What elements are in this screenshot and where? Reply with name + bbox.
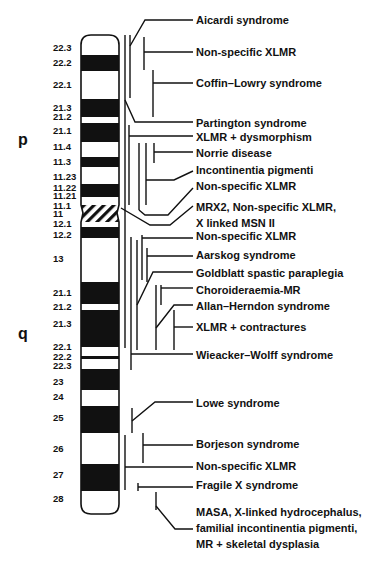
band-labels: 22.322.222.121.321.221.111.411.311.2311.… [53, 42, 77, 504]
band-21-1 [81, 123, 119, 142]
disease-label-partington: Partington syndrome [196, 117, 307, 129]
disease-label-line: Non-specific XLMR [196, 46, 296, 58]
band-label: 22.3 [53, 360, 72, 371]
disease-label-line: Incontinentia pigmenti [196, 164, 313, 176]
bracket-nonspecific-xlmr-4 [125, 435, 193, 490]
disease-label-line: MRX2, Non-specific XLMR, [196, 201, 336, 213]
band-label: 21.1 [53, 287, 72, 298]
bracket-nonspecific-xlmr-2 [139, 143, 193, 215]
bracket-masa [156, 492, 193, 529]
disease-label-nonspecific-xlmr-3: Non-specific XLMR [196, 230, 296, 242]
disease-label-coffin-lowry: Coffin–Lowry syndrome [196, 77, 322, 89]
band-label: 24 [53, 391, 64, 402]
bracket-choroideraemia [161, 285, 193, 305]
bracket-borjeson [143, 433, 193, 463]
disease-label-aarskog: Aarskog syndrome [196, 249, 296, 261]
band-28 [81, 491, 119, 514]
band-label: 11.4 [53, 141, 72, 152]
disease-label-line: Norrie disease [196, 147, 272, 159]
band-label: 22.1 [53, 79, 72, 90]
disease-label-allan-herndon: Allan–Herndon syndrome [196, 300, 330, 312]
disease-label-xlmr-dysmorphism: XLMR + dysmorphism [196, 131, 312, 143]
band-21-3 [81, 310, 119, 347]
band-11 [81, 214, 119, 222]
disease-label-line: XLMR + dysmorphism [196, 131, 312, 143]
x-chromosome-disease-map: pq 22.322.222.121.321.221.111.411.311.23… [0, 0, 385, 563]
band-27 [81, 464, 119, 491]
disease-label-line: Borjeson syndrome [196, 438, 299, 450]
disease-label-wieacker-wolff: Wieacker–Wolff syndrome [196, 349, 333, 361]
disease-label-line: MR + skeletal dysplasia [196, 538, 320, 550]
band-22-3 [81, 359, 119, 369]
disease-label-line: Partington syndrome [196, 117, 307, 129]
band-12-1 [81, 222, 119, 227]
band-24 [81, 390, 119, 406]
disease-label-masa: MASA, X-linked hydrocephalus,familial in… [196, 506, 362, 550]
disease-label-line: XLMR + contractures [196, 321, 306, 333]
disease-label-nonspecific-xlmr-1: Non-specific XLMR [196, 46, 296, 58]
arm-labels: pq [18, 131, 28, 342]
disease-label-mrx2: MRX2, Non-specific XLMR,X linked MSN II [196, 201, 336, 229]
band-11-3 [81, 157, 119, 167]
band-label: 26 [53, 443, 64, 454]
band-22-3 [81, 35, 119, 55]
disease-label-line: Goldblatt spastic paraplegia [196, 267, 344, 279]
band-11-22 [81, 184, 119, 197]
disease-label-choroideraemia: Choroideraemia-MR [196, 284, 301, 296]
disease-label-line: Wieacker–Wolff syndrome [196, 349, 333, 361]
disease-label-line: MASA, X-linked hydrocephalus, [196, 506, 362, 518]
band-25 [81, 406, 119, 433]
band-21-1 [81, 282, 119, 304]
disease-label-nonspecific-xlmr-2: Non-specific XLMR [196, 180, 296, 192]
band-11-23 [81, 167, 119, 184]
band-label: 22.2 [53, 57, 72, 68]
bracket-nonspecific-xlmr-3 [142, 235, 193, 280]
band-label: 11.23 [53, 171, 76, 182]
disease-label-borjeson: Borjeson syndrome [196, 438, 299, 450]
band-11-1 [81, 205, 119, 214]
disease-label-lowe: Lowe syndrome [196, 397, 280, 409]
band-22-2 [81, 55, 119, 71]
disease-label-line: Coffin–Lowry syndrome [196, 77, 322, 89]
band-11-21 [81, 197, 119, 205]
disease-label-line: familial incontinentia pigmenti, [196, 522, 357, 534]
band-label: 21.1 [53, 125, 72, 136]
band-21-3 [81, 99, 119, 117]
bracket-partington [125, 100, 193, 122]
arm-label-q: q [18, 325, 28, 342]
disease-label-line: Choroideraemia-MR [196, 284, 301, 296]
band-label: 27 [53, 469, 64, 480]
disease-label-line: Allan–Herndon syndrome [196, 300, 330, 312]
disease-label-line: X linked MSN II [196, 217, 275, 229]
band-23 [81, 369, 119, 390]
arm-label-p: p [18, 131, 28, 148]
band-11-4 [81, 142, 119, 157]
band-label: 25 [53, 412, 64, 423]
band-26 [81, 433, 119, 464]
band-21-2 [81, 117, 119, 123]
disease-label-norrie: Norrie disease [196, 147, 272, 159]
band-label: 21.2 [53, 301, 72, 312]
bracket-fragile-x [138, 483, 193, 491]
band-22-1 [81, 71, 119, 99]
disease-label-incontinentia-pigmenti: Incontinentia pigmenti [196, 164, 313, 176]
chromosome-ideogram [81, 35, 119, 514]
band-21-2 [81, 304, 119, 310]
disease-labels: Aicardi syndromeNon-specific XLMRCoffin–… [196, 14, 362, 550]
band-label: 21.3 [53, 318, 72, 329]
band-label: 21.2 [53, 111, 72, 122]
band-12-2 [81, 227, 119, 238]
disease-label-xlmr-contractures: XLMR + contractures [196, 321, 306, 333]
bracket-xlmr-contractures [174, 310, 193, 350]
disease-label-line: Non-specific XLMR [196, 230, 296, 242]
bracket-lowe [132, 402, 193, 433]
disease-label-line: Aicardi syndrome [196, 14, 289, 26]
bracket-aicardi [125, 20, 193, 348]
disease-label-aicardi: Aicardi syndrome [196, 14, 289, 26]
disease-label-line: Non-specific XLMR [196, 460, 296, 472]
band-label: 11.3 [53, 156, 71, 167]
band-label: 22.3 [53, 42, 72, 53]
band-label: 12.2 [53, 229, 72, 240]
bracket-aarskog [147, 248, 193, 282]
disease-label-fragile-x: Fragile X syndrome [196, 479, 298, 491]
